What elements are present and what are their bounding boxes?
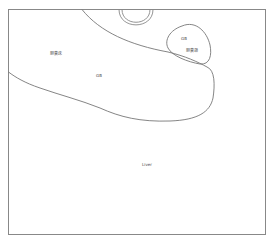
anatomy-diagram	[0, 0, 270, 238]
liver-frame	[9, 10, 266, 235]
top-semicircle-inner	[122, 10, 150, 23]
label-gallbladder-neck-cn: 胆囊颈	[186, 49, 198, 53]
label-gallbladder-bed-gb: GB	[96, 74, 102, 78]
gallbladder-bed-outline	[9, 10, 215, 122]
label-liver: Liver	[142, 163, 152, 167]
label-gb: GB	[181, 37, 187, 41]
label-gallbladder-bed-cn: 胆囊床	[50, 52, 62, 56]
